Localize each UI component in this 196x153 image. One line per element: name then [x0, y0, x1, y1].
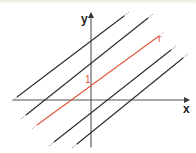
- x-axis-label: x: [183, 102, 190, 116]
- y-axis-label: y: [81, 12, 88, 26]
- intercept-label: 1: [85, 74, 91, 85]
- line-2: [21, 14, 153, 119]
- line-r: [32, 32, 164, 129]
- parallel-lines-diagram: y x r 1: [0, 0, 196, 153]
- line-4: [49, 46, 176, 146]
- line-1: [12, 12, 129, 101]
- line-5: [72, 54, 188, 148]
